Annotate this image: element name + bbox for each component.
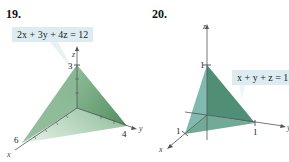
tetrahedron-plot-19: 3 4 6 z y x (0, 0, 145, 162)
x-axis-label: x (158, 145, 163, 154)
exercise-number: 19. (6, 7, 21, 22)
x-intercept-label: 6 (14, 135, 19, 145)
z-intercept-label: 3 (68, 61, 73, 71)
exercise-number: 20. (152, 7, 167, 22)
y-intercept-label: 1 (253, 127, 258, 137)
equation-label: 2x + 3y + 4z = 12 (12, 27, 93, 42)
x-axis-label: x (6, 150, 11, 159)
equation-label: x + y + z = 1 (232, 70, 289, 85)
y-axis-label: y (286, 123, 289, 132)
y-intercept-label: 4 (122, 129, 127, 139)
x-intercept-label: 1 (176, 126, 181, 136)
figure-20: 1 1 1 z y x 20. x + y + z = 1 (145, 0, 289, 162)
figure-19: 3 4 6 z y x 19. 2x + 3y + 4z = 12 (0, 0, 145, 162)
z-axis-label: z (71, 50, 76, 59)
y-axis-label: y (138, 124, 143, 133)
z-intercept-label: 1 (200, 60, 205, 70)
